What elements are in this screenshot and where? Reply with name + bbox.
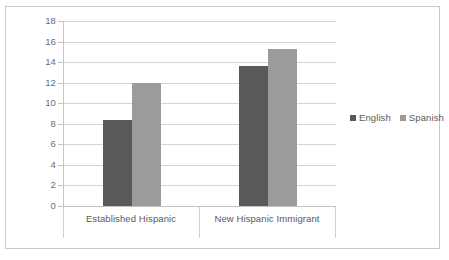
category-divider-0 xyxy=(63,206,64,238)
category-label-1: New Hispanic Immigrant xyxy=(199,214,335,224)
bar-spanish-0 xyxy=(132,83,161,206)
bars-layer xyxy=(64,7,336,248)
y-tick-label-6: 6 xyxy=(26,140,56,150)
bar-english-1 xyxy=(239,66,268,206)
legend-label-english: English xyxy=(359,113,391,123)
y-tick-label-2: 2 xyxy=(26,181,56,191)
category-label-0: Established Hispanic xyxy=(63,214,199,224)
y-tick-label-4: 4 xyxy=(26,160,56,170)
y-tick-label-18: 18 xyxy=(26,16,56,26)
bar-english-0 xyxy=(103,120,132,206)
chart-legend: EnglishSpanish xyxy=(350,113,444,123)
legend-swatch-icon-spanish xyxy=(400,115,406,121)
category-divider-1 xyxy=(199,206,200,238)
y-tick-label-16: 16 xyxy=(26,37,56,47)
legend-item-spanish[interactable]: Spanish xyxy=(400,113,444,123)
category-divider-2 xyxy=(335,206,336,238)
legend-label-spanish: Spanish xyxy=(409,113,444,123)
y-tick-label-0: 0 xyxy=(26,201,56,211)
legend-swatch-icon-english xyxy=(350,115,356,121)
y-tick-label-14: 14 xyxy=(26,57,56,67)
y-tick-label-8: 8 xyxy=(26,119,56,129)
plot-area: 181614121086420 Established HispanicNew … xyxy=(6,7,439,248)
chart-frame: 181614121086420 Established HispanicNew … xyxy=(5,6,440,249)
legend-item-english[interactable]: English xyxy=(350,113,391,123)
y-tick-label-12: 12 xyxy=(26,78,56,88)
y-tick-label-10: 10 xyxy=(26,98,56,108)
bar-spanish-1 xyxy=(268,49,297,206)
